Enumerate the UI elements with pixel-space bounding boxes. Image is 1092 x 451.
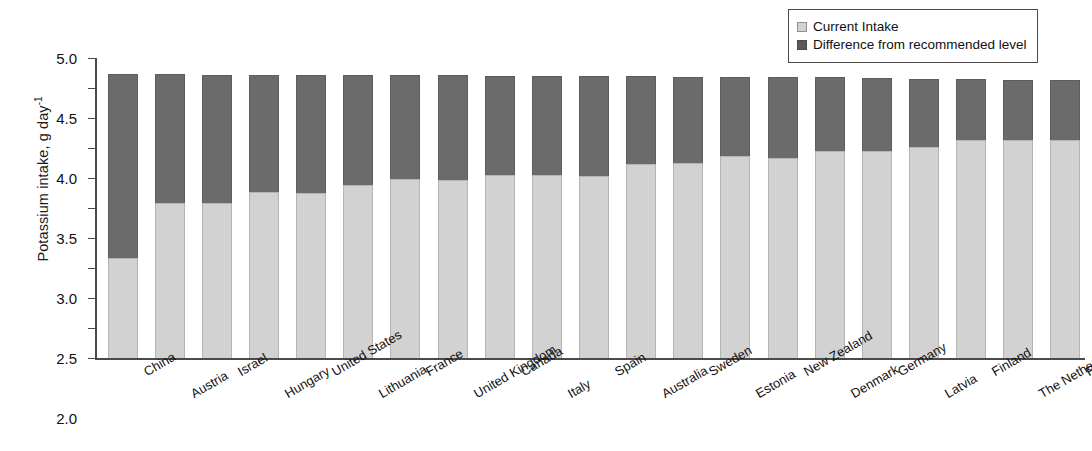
bar-segment-difference [579, 76, 609, 176]
bar-segment-difference [862, 78, 892, 151]
bar-segment-difference [532, 76, 562, 175]
x-axis-label-austria: Austria [188, 388, 196, 401]
bar-segment-current-intake [343, 185, 373, 358]
y-axis-tick: 4.5 [88, 88, 95, 89]
y-axis-tick-label: 4.5 [56, 110, 77, 127]
bar-segment-difference [390, 75, 420, 179]
bar-segment-current-intake [720, 156, 750, 358]
y-axis-title-text: Potassium intake, g day [35, 105, 51, 261]
y-axis-tick: 2.0 [88, 238, 95, 239]
bar-segment-current-intake [485, 175, 515, 358]
bar-segment-difference [155, 74, 185, 203]
chart-canvas: Potassium intake, g day-1 Current Intake… [0, 0, 1092, 451]
bar-segment-difference [485, 76, 515, 175]
y-axis-tick-label: 3.5 [56, 230, 77, 247]
bar-segment-difference [108, 74, 138, 258]
x-axis-label-estonia: Estonia [753, 388, 761, 401]
bar-segment-difference [768, 77, 798, 158]
bar-segment-current-intake [296, 193, 326, 358]
x-axis-label-hungary: Hungary [282, 388, 290, 401]
x-axis-label-latvia: Latvia [942, 388, 950, 401]
legend-label-difference: Difference from recommended level [813, 37, 1027, 52]
bar-segment-difference [720, 77, 750, 156]
bar-segment-current-intake [909, 147, 939, 358]
bar-segment-difference [249, 75, 279, 191]
x-axis-label-finland: Finland [989, 366, 997, 379]
y-axis-tick: 2.5 [88, 208, 95, 209]
y-axis-line [95, 58, 97, 359]
bar-segment-current-intake [1003, 140, 1033, 358]
legend-label-current-intake: Current Intake [813, 19, 899, 34]
x-axis-label-denmark: Denmark [848, 388, 856, 401]
bar-segment-difference [626, 76, 656, 164]
x-axis-label-australia: Australia [659, 388, 667, 401]
x-axis-label-italy: Italy [565, 388, 573, 401]
y-axis-tick: 3.5 [88, 148, 95, 149]
y-axis-tick-label: 4.0 [56, 170, 77, 187]
bar-segment-current-intake [532, 175, 562, 358]
x-axis-label-spain: Spain [612, 366, 620, 379]
bar-segment-current-intake [155, 203, 185, 358]
x-axis-label-new-zealand: New Zealand [801, 366, 809, 379]
y-axis-tick-label: 2.5 [56, 350, 77, 367]
plot-area: 5.04.54.03.53.02.52.01.51.00.50.0 ChinaA… [95, 58, 1085, 358]
x-axis-label-the-netherlands: The Netherlands [1036, 388, 1044, 401]
bar-segment-difference [1003, 80, 1033, 141]
x-axis-label-united-kingdom: United Kingdom [471, 388, 479, 401]
y-axis-tick-label: 3.0 [56, 290, 77, 307]
legend-swatch-dark-gray-square-icon [797, 40, 807, 50]
bar-segment-difference [956, 79, 986, 140]
bar-segment-difference [1050, 80, 1080, 141]
y-axis-tick: 4.0 [88, 118, 95, 119]
chart-legend: Current Intake Difference from recommend… [788, 9, 1038, 63]
bar-segment-difference [202, 75, 232, 203]
y-axis-tick: 5.0 [88, 58, 95, 59]
y-axis-tick: 0.0 [88, 358, 95, 359]
legend-item-current-intake: Current Intake [797, 19, 1027, 34]
bar-segment-current-intake [673, 163, 703, 358]
bar-segment-current-intake [579, 176, 609, 358]
bar-segment-difference [815, 77, 845, 151]
bar-segment-current-intake [1050, 140, 1080, 358]
legend-swatch-light-gray-square-icon [797, 22, 807, 32]
bar-segment-current-intake [438, 180, 468, 358]
y-axis-title-exponent: -1 [33, 96, 44, 105]
y-axis-tick-label: 5.0 [56, 50, 77, 67]
x-axis-label-china: China [141, 366, 149, 379]
bar-segment-difference [296, 75, 326, 193]
y-axis-tick: 3.0 [88, 178, 95, 179]
bar-segment-difference [438, 75, 468, 179]
bar-segment-current-intake [768, 158, 798, 358]
y-axis-tick: 0.5 [88, 328, 95, 329]
y-axis-tick-label: 2.0 [56, 410, 77, 427]
bar-segment-current-intake [202, 203, 232, 358]
legend-item-difference: Difference from recommended level [797, 37, 1027, 52]
x-axis-label-lithuania: Lithuania [376, 388, 384, 401]
bar-segment-current-intake [108, 258, 138, 358]
x-axis-label-israel: Israel [235, 366, 243, 379]
bar-segment-difference [673, 77, 703, 163]
bar-segment-current-intake [815, 151, 845, 358]
y-axis-tick: 1.0 [88, 298, 95, 299]
bar-segment-difference [909, 79, 939, 147]
bar-segment-current-intake [626, 164, 656, 358]
bar-segment-current-intake [956, 140, 986, 358]
bar-segment-difference [343, 75, 373, 185]
y-axis-tick: 1.5 [88, 268, 95, 269]
bar-segment-current-intake [249, 192, 279, 358]
y-axis-title: Potassium intake, g day-1 [33, 49, 51, 309]
